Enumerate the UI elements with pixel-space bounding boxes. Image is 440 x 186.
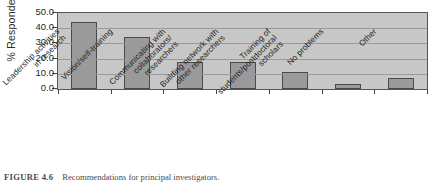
- y-axis-tick-mark: [52, 58, 57, 59]
- y-axis-tick-mark: [52, 88, 57, 89]
- y-axis-tick-mark: [52, 27, 57, 28]
- caption-label: FIGURE 4.6: [4, 172, 53, 182]
- y-axis-tick-mark: [52, 12, 57, 13]
- x-axis-tick-mark: [427, 90, 428, 94]
- x-axis-tick-mark: [58, 90, 59, 94]
- x-axis-tick-mark: [322, 90, 323, 94]
- x-axis-tick-mark: [269, 90, 270, 94]
- x-axis-tick-mark: [216, 90, 217, 94]
- x-axis-tick-mark: [374, 90, 375, 94]
- figure-container: % Respondents 50.040.030.020.010.00.0 Le…: [0, 0, 440, 186]
- y-axis-tick-mark: [52, 42, 57, 43]
- y-axis-tick-label: 50.0: [20, 7, 54, 16]
- figure-caption: FIGURE 4.6Recommendations for principal …: [4, 172, 434, 182]
- caption-text: Recommendations for principal investigat…: [62, 172, 219, 182]
- y-axis-tick-mark: [52, 73, 57, 74]
- bar-slot: [374, 13, 427, 89]
- gridline: [58, 43, 427, 44]
- x-axis-tick-mark: [163, 90, 164, 94]
- y-axis-tick-label: 40.0: [20, 22, 54, 31]
- x-axis-tick-mark: [111, 90, 112, 94]
- x-axis-tick-labels: Leadership activities in researchVision/…: [0, 88, 440, 158]
